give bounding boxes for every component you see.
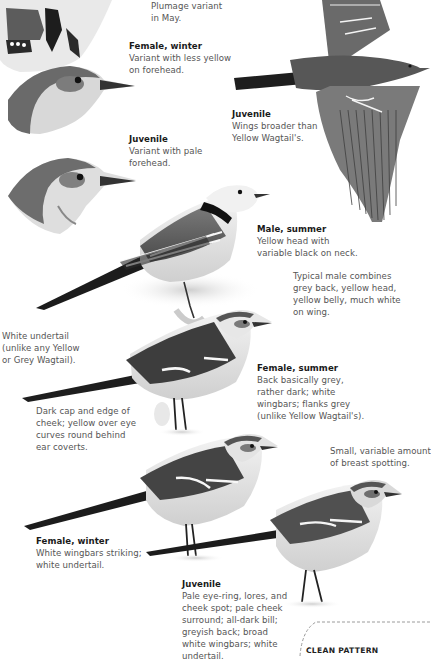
- annotation-female-winter-head: Female, winter Variant with less yellow …: [129, 40, 231, 76]
- head-juvenile-illustration: [8, 158, 136, 234]
- annotation-title: Juvenile: [182, 578, 287, 590]
- annotation-juvenile-standing: Juvenile Pale eye-ring, lores, and cheek…: [182, 578, 287, 662]
- annotation-female-summer: Female, summer Back basically grey, rath…: [257, 362, 364, 422]
- annotation-typical-male: Typical male combines grey back, yellow …: [293, 270, 401, 318]
- annotation-title: Female, winter: [129, 40, 231, 52]
- annotation-title: Female, summer: [257, 362, 364, 374]
- annotation-body: Variant with pale forehead.: [129, 145, 202, 169]
- annotation-title: Male, summer: [257, 223, 358, 235]
- annotation-dark-cap: Dark cap and edge of cheek; yellow over …: [36, 405, 136, 453]
- annotation-title: Juvenile: [232, 108, 318, 120]
- annotation-body: Pale eye-ring, lores, and cheek spot; pa…: [182, 590, 287, 662]
- annotation-body: White wingbars striking; white undertail…: [36, 547, 142, 571]
- annotation-title: Female, winter: [36, 535, 142, 547]
- annotation-male-summer: Male, summer Yellow head with variable b…: [257, 223, 358, 259]
- annotation-female-winter: Female, winter White wingbars striking; …: [36, 535, 142, 571]
- annotation-body: Yellow head with variable black on neck.: [257, 235, 358, 259]
- annotation-body: Wings broader than Yellow Wagtail's.: [232, 120, 318, 144]
- annotation-body: Back basically grey, rather dark; white …: [257, 374, 364, 422]
- annotation-body: Small, variable amount of breast spottin…: [330, 445, 431, 469]
- annotation-body: Dark cap and edge of cheek; yellow over …: [36, 405, 136, 453]
- annotation-body: Plumage variant in May.: [151, 0, 222, 24]
- annotation-juvenile-flight: Juvenile Wings broader than Yellow Wagta…: [232, 108, 318, 144]
- head-variant-may-illustration: [0, 0, 112, 72]
- annotation-juvenile-head: Juvenile Variant with pale forehead.: [129, 133, 202, 169]
- annotation-body: Typical male combines grey back, yellow …: [293, 270, 401, 318]
- head-female-winter-illustration: [8, 66, 135, 134]
- annotation-body: White undertail (unlike any Yellow or Gr…: [2, 330, 80, 366]
- annotation-body: Variant with less yellow on forehead.: [129, 52, 231, 76]
- annotation-title: Juvenile: [129, 133, 202, 145]
- annotation-breast-spotting: Small, variable amount of breast spottin…: [330, 445, 431, 469]
- callout-box-label: CLEAN PATTERN: [306, 646, 378, 655]
- annotation-plumage-variant: Plumage variant in May.: [151, 0, 222, 24]
- annotation-white-undertail: White undertail (unlike any Yellow or Gr…: [2, 330, 80, 366]
